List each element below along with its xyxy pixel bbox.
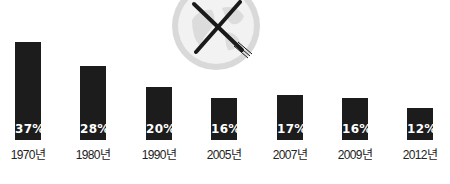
bar-5: 16% — [342, 98, 368, 140]
bar-value-label: 16% — [211, 122, 237, 136]
bar-2: 20% — [146, 87, 172, 140]
category-label: 1990년 — [129, 145, 189, 162]
bar-value-label: 37% — [15, 122, 41, 136]
category-label: 1980년 — [63, 145, 123, 162]
globe-with-knife-fork-icon — [170, 0, 262, 72]
category-label: 1970년 — [0, 145, 58, 162]
category-label: 2009년 — [325, 145, 385, 162]
bar-value-label: 17% — [277, 122, 303, 136]
bar-value-label: 28% — [80, 122, 106, 136]
category-label: 2007년 — [260, 145, 320, 162]
bar-6: 12% — [407, 108, 433, 140]
bar-1: 28% — [80, 66, 106, 140]
bar-value-label: 12% — [407, 122, 433, 136]
category-label: 2012년 — [390, 145, 450, 162]
bar-0: 37% — [15, 42, 41, 140]
category-label: 2005년 — [194, 145, 254, 162]
bar-3: 16% — [211, 98, 237, 140]
bar-4: 17% — [277, 95, 303, 140]
bar-value-label: 20% — [146, 122, 172, 136]
bar-value-label: 16% — [342, 122, 368, 136]
bar-chart: 37%1970년28%1980년20%1990년16%2005년17%2007년… — [0, 0, 450, 184]
